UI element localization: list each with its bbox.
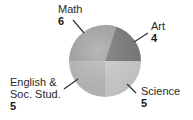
leader-line-art [134,33,148,42]
pie-chart [0,0,193,120]
label-math: Math [58,4,82,15]
value-math: 6 [58,16,64,27]
value-english: 5 [10,101,16,112]
label-english-line1: English & [10,77,56,88]
leader-line-math [73,20,84,33]
label-science: Science [141,86,180,97]
label-english-line2: Soc. Stud. [10,89,61,100]
value-art: 4 [151,33,157,44]
label-art: Art [151,21,165,32]
leader-line-english [64,79,78,89]
value-science: 5 [141,98,147,109]
pie-shading [69,25,141,97]
